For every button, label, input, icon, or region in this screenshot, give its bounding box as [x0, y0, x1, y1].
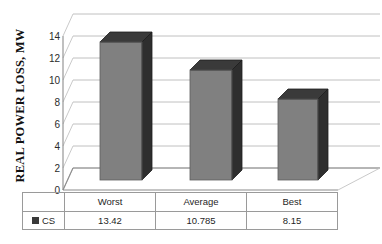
data-table: Worst Average Best CS 13.42 10.785 8.15	[22, 192, 338, 230]
table-value-worst: 13.42	[65, 212, 156, 230]
table-header-corner	[23, 193, 65, 211]
gridlines-depth	[63, 14, 73, 190]
table-value-best: 8.15	[247, 212, 337, 230]
table-row: CS 13.42 10.785 8.15	[23, 212, 337, 230]
legend-entry-cs: CS	[23, 212, 65, 230]
bar-average	[190, 60, 242, 180]
table-header-average: Average	[156, 193, 247, 211]
series-swatch-icon	[32, 217, 39, 224]
table-header-worst: Worst	[65, 193, 156, 211]
table-header-row: Worst Average Best	[23, 193, 337, 212]
bar-best	[278, 89, 328, 180]
legend-label-cs: CS	[42, 215, 55, 226]
chart-figure: REAL POWER LOSS, MW 14 12 10 8 6 4 2 0 .…	[0, 0, 382, 244]
table-header-best: Best	[247, 193, 337, 211]
table-value-average: 10.785	[156, 212, 247, 230]
bar-worst	[100, 32, 152, 180]
